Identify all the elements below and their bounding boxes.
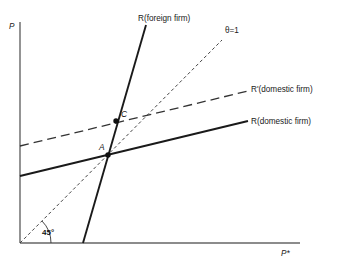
point-a-label: A <box>98 142 105 152</box>
reaction-function-diagram: P P* 45° A C R(foreign firm) θ=1 R'(dome… <box>0 0 347 270</box>
r-domestic-firm-line <box>20 121 248 176</box>
r-domestic-firm-label: R(domestic firm) <box>251 117 311 126</box>
r-prime-domestic-firm-label: R'(domestic firm) <box>251 85 313 94</box>
point-c-marker <box>113 118 118 123</box>
axes-group <box>20 22 300 243</box>
r-prime-domestic-firm-line <box>20 91 248 146</box>
point-c-label: C <box>121 109 128 119</box>
r-foreign-firm-line <box>83 25 146 243</box>
x-axis-label: P* <box>281 249 290 258</box>
y-axis-label: P <box>9 22 15 31</box>
theta-label: θ=1 <box>225 26 239 35</box>
foreign-firm-label: R(foreign firm) <box>138 14 191 23</box>
theta-equals-one-line <box>20 40 222 243</box>
angle-label: 45° <box>42 228 54 237</box>
point-a-marker <box>105 152 110 157</box>
